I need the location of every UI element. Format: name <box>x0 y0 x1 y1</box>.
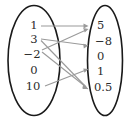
left-set-value-3: −2 <box>24 49 41 61</box>
mapping-arrow-neg2-to-5 <box>42 28 89 50</box>
right-set-ellipse <box>88 6 123 116</box>
right-set-value-3: 0 <box>97 51 104 63</box>
mapping-diagram: 1 3 −2 0 10 5 −8 0 1 0.5 <box>0 0 124 121</box>
mapping-arrow-neg2-to-half <box>42 52 88 89</box>
mapping-arrow-1-to-5 <box>41 24 89 29</box>
right-set-value-4: 1 <box>97 66 104 78</box>
left-set-value-4: 0 <box>30 65 37 77</box>
left-set-value-5: 10 <box>26 81 41 93</box>
left-set-value-2: 3 <box>30 34 37 46</box>
mapping-diagram-canvas <box>0 0 124 121</box>
right-set-value-2: −8 <box>95 36 112 48</box>
left-set-value-1: 1 <box>30 20 37 32</box>
right-set-value-5: 0.5 <box>94 82 112 94</box>
right-set-value-1: 5 <box>97 20 104 32</box>
